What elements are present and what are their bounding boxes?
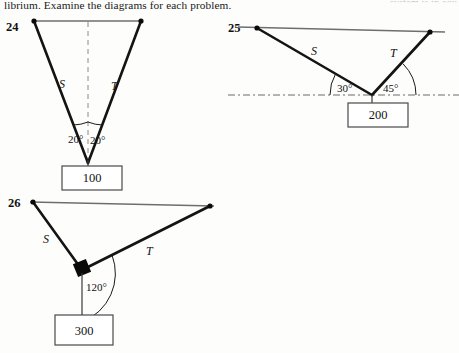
weight-label-26: 300 (75, 324, 94, 338)
ceiling-beam-25 (238, 27, 445, 32)
anchor-point-left-24 (31, 18, 36, 23)
angle-arc-left-25 (330, 74, 336, 95)
angle-arc-right-24 (88, 122, 103, 125)
weight-label-25: 200 (369, 108, 388, 122)
cable-label-t-26: T (146, 244, 154, 258)
anchor-point-right-24 (138, 18, 143, 23)
angle-label-left-25: 30° (337, 82, 352, 94)
cable-t-26 (82, 206, 210, 270)
cable-label-t-25: T (390, 46, 398, 60)
weight-label-24: 100 (83, 171, 102, 185)
angle-label-26: 120° (86, 281, 107, 293)
ceiling-beam-26 (30, 202, 214, 206)
anchor-point-right-26 (207, 203, 212, 208)
angle-label-right-24: 20° (90, 134, 105, 146)
anchor-point-right-25 (427, 29, 432, 34)
angle-label-right-25: 45° (383, 82, 398, 94)
diagram-problem-26: 120° S T 300 (0, 185, 240, 353)
anchor-point-left-26 (30, 199, 35, 204)
angle-arc-left-24 (74, 122, 89, 125)
cable-s-26 (33, 202, 82, 270)
cable-label-s-26: S (43, 232, 49, 246)
diagram-problem-25: 30° 45° S T 200 (220, 0, 459, 140)
diagram-problem-24: 20° 20° S T 100 (0, 0, 200, 200)
textbook-page: librium. Examine the diagrams for each p… (0, 0, 459, 353)
cable-s-25 (257, 28, 372, 95)
angle-label-left-24: 20° (68, 133, 83, 145)
cable-t-25 (372, 32, 430, 95)
cable-label-s-25: S (311, 44, 317, 58)
cable-label-s-24: S (59, 77, 65, 91)
anchor-point-left-25 (254, 25, 259, 30)
angle-arc-right-25 (403, 64, 416, 95)
